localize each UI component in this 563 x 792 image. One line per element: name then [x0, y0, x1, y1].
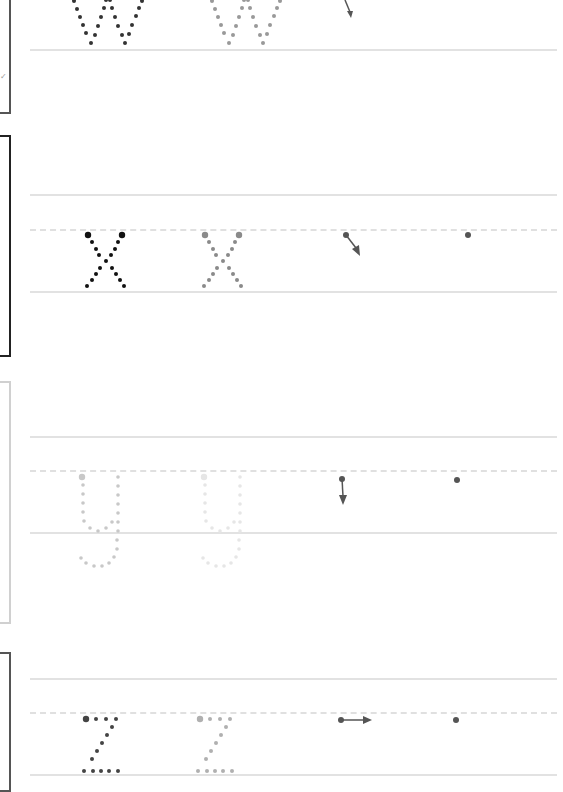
letter-z-frame [0, 652, 11, 792]
z-baseline [30, 774, 557, 776]
letter-z-grey-trace [194, 714, 238, 774]
letter-w-grey-trace [208, 0, 288, 46]
letter-w-frame [0, 0, 11, 114]
letter-x-grey-trace [199, 230, 249, 292]
z-topline [30, 678, 557, 680]
w-baseline [30, 49, 557, 51]
w-start-arrow-icon [340, 0, 360, 20]
letter-y-very-light-trace [198, 472, 248, 572]
letter-x-frame [0, 135, 11, 357]
z-start-dot [451, 715, 461, 725]
letter-y-light-trace [76, 472, 126, 572]
x-topline [30, 194, 557, 196]
letter-w-dark-trace [70, 0, 150, 46]
letter-z-dark-trace [80, 714, 124, 774]
y-start-arrow-icon [336, 474, 350, 508]
x-start-arrow-icon [340, 228, 366, 260]
x-start-dot [463, 230, 473, 240]
letter-y-frame [0, 381, 11, 624]
y-start-dot [452, 475, 462, 485]
z-start-arrow-icon [336, 714, 376, 726]
frame-mark: ✓ [0, 72, 7, 81]
y-topline [30, 436, 557, 438]
letter-x-dark-trace [82, 230, 132, 292]
